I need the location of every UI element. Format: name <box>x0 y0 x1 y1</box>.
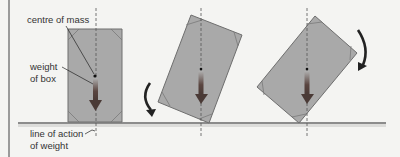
toppling-box-diagram: centre of mass weight of box line of act… <box>0 0 400 157</box>
label-loa-line1: line of action <box>30 128 83 139</box>
box-tilted-right <box>257 8 357 137</box>
left-border <box>8 0 10 157</box>
rotation-arrow-right-icon <box>358 30 367 71</box>
centre-of-mass-dot <box>93 74 96 77</box>
label-centre-of-mass: centre of mass <box>27 14 90 25</box>
diagram-stage: centre of mass weight of box line of act… <box>0 0 400 157</box>
label-loa-line2: of weight <box>30 140 68 151</box>
box-upright <box>68 8 122 137</box>
leader-line-of-action <box>85 130 95 134</box>
label-weight-line2: of box <box>30 73 56 84</box>
box-tilted-left <box>158 8 242 137</box>
label-weight-line1: weight <box>29 61 58 72</box>
rotation-arrow-left-icon <box>145 83 156 117</box>
